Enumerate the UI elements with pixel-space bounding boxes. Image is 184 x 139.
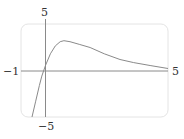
x-min-tick-label: −1: [3, 66, 19, 77]
function-curve: [32, 41, 168, 117]
function-plot: [0, 0, 184, 139]
y-min-tick-label: −5: [38, 121, 54, 132]
y-max-tick-label: 5: [41, 7, 48, 18]
x-max-tick-label: 5: [172, 66, 179, 77]
